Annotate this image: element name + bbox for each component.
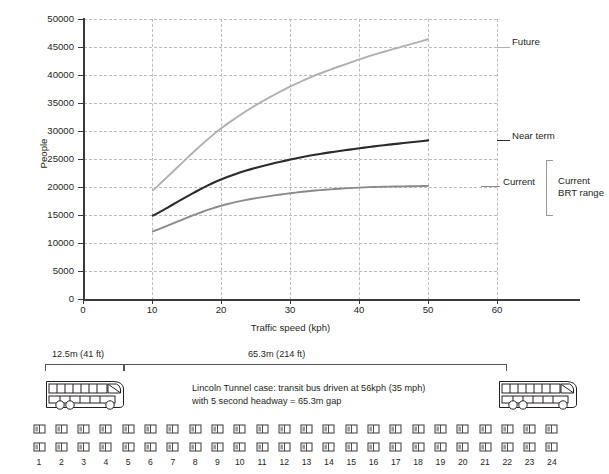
car-column: 9 xyxy=(208,420,226,468)
car-column: 14 xyxy=(320,420,338,468)
near-term-label: Near term xyxy=(512,130,555,141)
car-icon xyxy=(479,442,492,452)
car-icon xyxy=(300,424,313,434)
current-leader-line xyxy=(481,186,500,187)
car-number-label: 2 xyxy=(52,457,70,468)
y-tick-label-10000: 10000 xyxy=(26,238,74,248)
car-icon xyxy=(256,442,269,452)
car-column: 23 xyxy=(521,420,539,468)
car-number-label: 20 xyxy=(454,457,472,468)
car-icon xyxy=(523,424,536,434)
car-number-label: 7 xyxy=(164,457,182,468)
y-tick-mark-25000 xyxy=(78,159,83,160)
note-line-2: with 5 second headway = 65.3m gap xyxy=(192,395,341,408)
car-icon xyxy=(322,442,335,452)
note-line-1: Lincoln Tunnel case: transit bus driven … xyxy=(192,382,425,395)
car-number-label: 21 xyxy=(476,457,494,468)
bus-icon-right xyxy=(497,378,579,413)
car-number-label: 9 xyxy=(208,457,226,468)
car-icon xyxy=(233,442,246,452)
y-tick-label-35000: 35000 xyxy=(26,98,74,108)
car-number-label: 23 xyxy=(521,457,539,468)
car-icon xyxy=(33,424,46,434)
line-chart: People 50000 45000 40000 35000 30000 250… xyxy=(0,0,609,340)
y-tick-mark-20000 xyxy=(78,187,83,188)
car-column: 15 xyxy=(342,420,360,468)
y-tick-label-20000: 20000 xyxy=(26,182,74,192)
y-tick-label-50000: 50000 xyxy=(26,14,74,24)
future-label: Future xyxy=(512,36,540,47)
car-number-label: 11 xyxy=(253,457,271,468)
car-icon xyxy=(545,442,558,452)
car-icon xyxy=(501,442,514,452)
y-tick-mark-45000 xyxy=(78,47,83,48)
car-icon xyxy=(345,424,358,434)
car-column: 3 xyxy=(75,420,93,468)
car-number-label: 12 xyxy=(275,457,293,468)
car-icon xyxy=(412,442,425,452)
car-icon xyxy=(77,424,90,434)
x-axis-title: Traffic speed (kph) xyxy=(84,322,497,333)
car-column: 6 xyxy=(142,420,160,468)
car-icon xyxy=(434,442,447,452)
y-tick-mark-40000 xyxy=(78,75,83,76)
car-icon xyxy=(278,424,291,434)
car-icon xyxy=(55,442,68,452)
brt-range-label-line1: Current xyxy=(558,175,590,186)
car-icon xyxy=(122,442,135,452)
car-icon xyxy=(479,424,492,434)
series-plot-area xyxy=(84,19,497,300)
car-icon xyxy=(144,424,157,434)
car-icon xyxy=(367,424,380,434)
car-column: 16 xyxy=(365,420,383,468)
car-column: 1 xyxy=(30,420,48,468)
car-number-label: 5 xyxy=(119,457,137,468)
figure-root: People 50000 45000 40000 35000 30000 250… xyxy=(0,0,609,474)
car-icon xyxy=(99,442,112,452)
car-number-label: 8 xyxy=(186,457,204,468)
car-column: 24 xyxy=(543,420,561,468)
x-tick-label-40: 40 xyxy=(339,305,379,315)
car-icon xyxy=(77,442,90,452)
y-tick-mark-35000 xyxy=(78,103,83,104)
y-tick-label-0: 0 xyxy=(26,294,74,304)
car-icon xyxy=(545,424,558,434)
car-column: 13 xyxy=(298,420,316,468)
car-column: 22 xyxy=(498,420,516,468)
bus-icon-left xyxy=(44,378,126,413)
car-icon xyxy=(189,424,202,434)
car-icon xyxy=(233,424,246,434)
x-tick-label-0: 0 xyxy=(63,305,103,315)
brt-range-label-line2: BRT range xyxy=(558,187,604,198)
car-number-label: 19 xyxy=(431,457,449,468)
x-tick-label-60: 60 xyxy=(477,305,517,315)
car-icon xyxy=(367,442,380,452)
y-tick-mark-5000 xyxy=(78,271,83,272)
car-number-label: 4 xyxy=(97,457,115,468)
car-icon xyxy=(33,442,46,452)
car-column: 12 xyxy=(275,420,293,468)
car-number-label: 14 xyxy=(320,457,338,468)
y-tick-label-25000: 25000 xyxy=(26,154,74,164)
car-icon xyxy=(300,442,313,452)
car-column: 11 xyxy=(253,420,271,468)
car-icon xyxy=(144,442,157,452)
y-tick-mark-50000 xyxy=(78,19,83,20)
car-number-label: 6 xyxy=(142,457,160,468)
car-number-label: 15 xyxy=(342,457,360,468)
car-number-label: 24 xyxy=(543,457,561,468)
car-icon xyxy=(456,442,469,452)
car-number-label: 16 xyxy=(365,457,383,468)
x-tick-label-10: 10 xyxy=(132,305,172,315)
x-tick-label-20: 20 xyxy=(201,305,241,315)
car-icon xyxy=(389,442,402,452)
car-icon xyxy=(122,424,135,434)
near-term-leader-line xyxy=(497,140,510,141)
car-number-label: 10 xyxy=(231,457,249,468)
x-tick-label-30: 30 xyxy=(270,305,310,315)
car-column: 21 xyxy=(476,420,494,468)
y-tick-label-5000: 5000 xyxy=(26,266,74,276)
car-column: 4 xyxy=(97,420,115,468)
car-row: 123456789101112131415161718192021222324 xyxy=(0,420,609,474)
car-icon xyxy=(166,442,179,452)
